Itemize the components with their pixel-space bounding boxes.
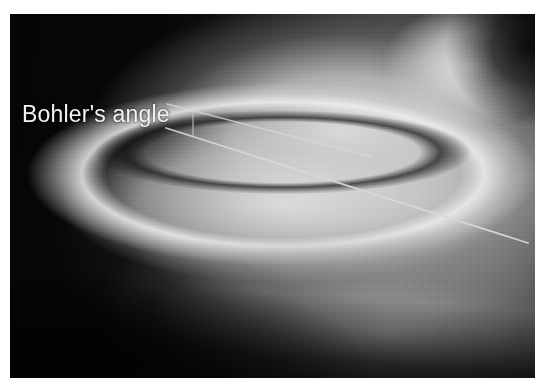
bohler-angle-lines (166, 104, 528, 243)
radiograph-figure: Bohler's angle (0, 0, 552, 387)
xray-plate: Bohler's angle (10, 14, 535, 378)
inferior-line (166, 128, 528, 243)
superior-line (167, 104, 372, 157)
bohler-angle-label: Bohler's angle (22, 101, 170, 128)
angle-overlay (10, 14, 535, 378)
